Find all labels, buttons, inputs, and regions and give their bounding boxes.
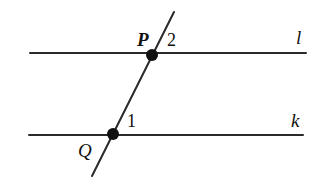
transversal-line (92, 12, 174, 176)
line-k-label: k (291, 110, 300, 131)
angle-2-label: 2 (167, 30, 176, 50)
point-q (107, 128, 119, 140)
point-p-label: P (136, 29, 149, 50)
angle-1-label: 1 (127, 111, 136, 131)
diagram-canvas: P 2 l Q 1 k (0, 0, 320, 182)
point-q-label: Q (78, 140, 92, 161)
line-l-label: l (296, 27, 301, 48)
point-p (146, 49, 158, 61)
